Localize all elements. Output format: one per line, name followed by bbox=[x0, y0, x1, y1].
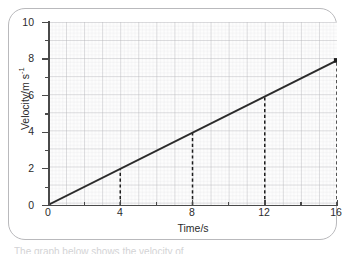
x-tick-12 bbox=[264, 200, 265, 206]
y-tick-1 bbox=[45, 187, 49, 188]
y-tick-10 bbox=[42, 22, 48, 23]
x-tick-label-0: 0 bbox=[28, 207, 68, 218]
x-tick-label-4: 4 bbox=[100, 207, 140, 218]
y-tick-3 bbox=[45, 150, 49, 151]
x-tick-label-8: 8 bbox=[172, 207, 212, 218]
x-tick-16 bbox=[337, 200, 338, 206]
y-axis-line bbox=[48, 21, 50, 206]
y-tick-5 bbox=[45, 113, 49, 114]
y-tick-4 bbox=[42, 132, 48, 133]
y-tick-8 bbox=[42, 58, 48, 59]
x-tick-6 bbox=[156, 202, 157, 206]
x-tick-10 bbox=[228, 202, 229, 206]
x-tick-0 bbox=[48, 200, 49, 206]
y-axis-title: Velocity/m s-1 bbox=[17, 39, 31, 159]
x-tick-label-12: 12 bbox=[244, 207, 284, 218]
x-tick-8 bbox=[192, 200, 193, 206]
plot-area bbox=[48, 22, 337, 205]
x-tick-4 bbox=[120, 200, 121, 206]
data-marker-end bbox=[334, 58, 337, 63]
y-axis-title-exponent: -1 bbox=[17, 67, 26, 74]
figure-container: 10 8 6 4 2 0 0 4 8 12 16 Time/s Velocity… bbox=[0, 0, 353, 254]
x-axis-title: Time/s bbox=[48, 222, 338, 234]
y-tick-9 bbox=[45, 40, 49, 41]
x-tick-label-16: 16 bbox=[316, 207, 353, 218]
y-axis-title-text: Velocity/m s bbox=[19, 74, 31, 130]
chart-canvas bbox=[48, 22, 337, 205]
y-tick-label-2: 2 bbox=[0, 163, 34, 174]
figure-caption: The graph below shows the velocity of bbox=[14, 246, 344, 254]
y-tick-2 bbox=[42, 168, 48, 169]
y-tick-7 bbox=[45, 77, 49, 78]
x-tick-14 bbox=[300, 202, 301, 206]
y-tick-label-10: 10 bbox=[0, 17, 34, 28]
x-tick-2 bbox=[84, 202, 85, 206]
y-tick-6 bbox=[42, 95, 48, 96]
